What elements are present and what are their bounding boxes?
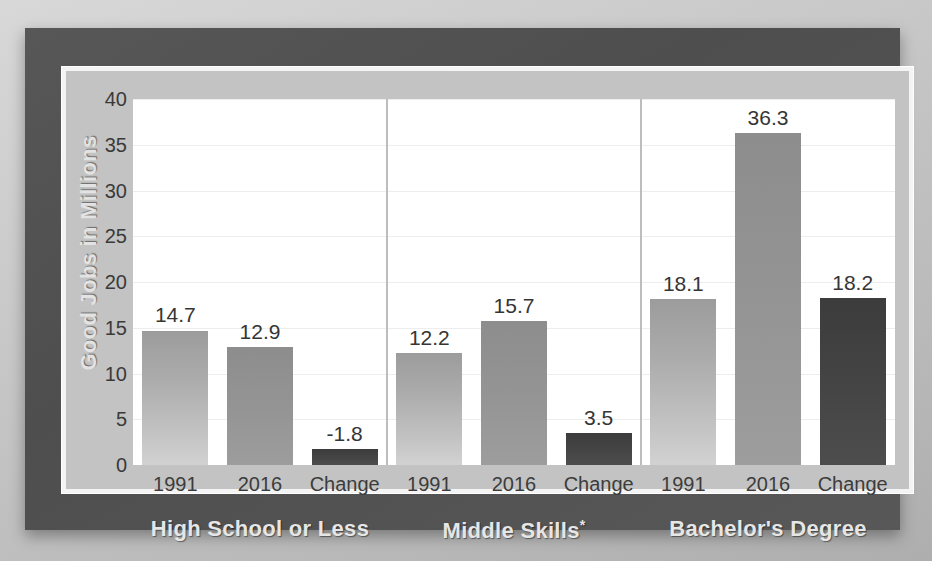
bar-bachelor-s-degree-change [820, 298, 886, 465]
group-label-asterisk: * [580, 517, 586, 533]
bar-high-school-or-less-2016 [227, 347, 293, 465]
bar-bachelor-s-degree-2016 [735, 133, 801, 465]
x-axis-tick-label: Change [803, 474, 903, 494]
group-separator [386, 99, 388, 465]
y-axis-tick-label: 35 [83, 135, 127, 155]
bar-value-label: 3.5 [554, 407, 644, 428]
bar-middle-skills-change [566, 433, 632, 465]
y-axis-tick-label: 0 [83, 455, 127, 475]
bar-value-label: 18.1 [638, 273, 728, 294]
bar-value-label: -1.8 [300, 423, 390, 444]
x-axis: 19912016Change19912016Change19912016Chan… [133, 474, 895, 504]
bar-value-label: 15.7 [469, 295, 559, 316]
bar-high-school-or-less-1991 [142, 331, 208, 466]
y-axis-tick-label: 30 [83, 181, 127, 201]
plot-area: 14.712.9-1.812.215.73.518.136.318.2 [133, 99, 895, 465]
group-labels: High School or LessMiddle Skills*Bachelo… [50, 518, 925, 552]
gridline [133, 99, 895, 100]
bar-value-label: 12.2 [384, 327, 474, 348]
bar-value-label: 36.3 [723, 107, 813, 128]
y-axis-tick-label: 5 [83, 409, 127, 429]
bar-value-label: 12.9 [215, 321, 305, 342]
y-axis-tick-label: 20 [83, 272, 127, 292]
y-axis-tick-label: 25 [83, 226, 127, 246]
bar-middle-skills-1991 [396, 353, 462, 465]
chart-outer-panel: Good Jobs in Millions 0510152025303540 1… [25, 28, 900, 530]
bar-high-school-or-less-change [312, 449, 378, 465]
bar-middle-skills-2016 [481, 321, 547, 465]
group-label-bachelor-s-degree: Bachelor's Degree [618, 518, 918, 540]
y-axis-tick-label: 15 [83, 318, 127, 338]
y-axis: 0510152025303540 [77, 99, 127, 465]
bar-value-label: 14.7 [130, 304, 220, 325]
bar-bachelor-s-degree-1991 [650, 299, 716, 465]
bar-value-label: 18.2 [808, 272, 898, 293]
y-axis-tick-label: 10 [83, 364, 127, 384]
y-axis-tick-label: 40 [83, 89, 127, 109]
